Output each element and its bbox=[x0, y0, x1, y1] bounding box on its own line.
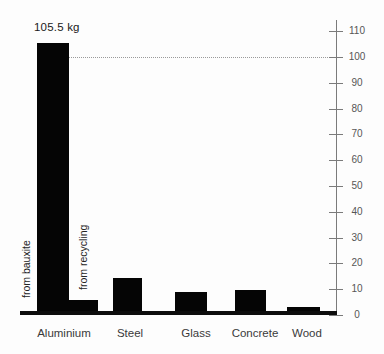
y-tick-label-80: 80 bbox=[344, 103, 370, 115]
y-tick-80 bbox=[329, 109, 343, 110]
y-tick-0 bbox=[329, 315, 343, 316]
y-axis-line bbox=[336, 20, 337, 315]
category-label-steel: Steel bbox=[117, 327, 143, 339]
y-tick-label-90: 90 bbox=[344, 77, 370, 89]
y-tick-70 bbox=[329, 134, 343, 135]
bar-chart: 105.5 kg from bauxitefrom recycling 0102… bbox=[0, 0, 384, 354]
bar-aluminium-bauxite bbox=[37, 43, 69, 315]
y-tick-10 bbox=[329, 289, 343, 290]
y-tick-20 bbox=[329, 263, 343, 264]
chart-annotation: 105.5 kg bbox=[34, 21, 80, 33]
y-tick-label-20: 20 bbox=[344, 257, 370, 269]
category-label-aluminium: Aluminium bbox=[37, 327, 91, 339]
y-tick-label-30: 30 bbox=[344, 232, 370, 244]
y-tick-label-100: 100 bbox=[344, 51, 370, 63]
y-tick-label-110: 110 bbox=[344, 25, 370, 37]
bar-steel bbox=[113, 278, 142, 315]
y-tick-110 bbox=[329, 31, 343, 32]
y-tick-60 bbox=[329, 160, 343, 161]
sublabel-aluminium-recycling: from recycling bbox=[77, 225, 90, 290]
category-label-concrete: Concrete bbox=[232, 327, 279, 339]
y-tick-label-50: 50 bbox=[344, 180, 370, 192]
y-tick-label-60: 60 bbox=[344, 154, 370, 166]
y-tick-30 bbox=[329, 238, 343, 239]
y-tick-label-40: 40 bbox=[344, 206, 370, 218]
y-tick-50 bbox=[329, 186, 343, 187]
sublabel-aluminium-bauxite: from bauxite bbox=[20, 240, 33, 298]
x-axis-line bbox=[20, 311, 337, 315]
y-tick-label-10: 10 bbox=[344, 283, 370, 295]
category-label-wood: Wood bbox=[292, 327, 322, 339]
y-tick-100 bbox=[329, 57, 343, 58]
y-tick-40 bbox=[329, 212, 343, 213]
y-tick-label-70: 70 bbox=[344, 128, 370, 140]
category-label-glass: Glass bbox=[181, 327, 210, 339]
reference-line-100 bbox=[69, 57, 336, 58]
figure: 105.5 kg from bauxitefrom recycling 0102… bbox=[0, 0, 384, 354]
y-tick-90 bbox=[329, 83, 343, 84]
y-tick-label-0: 0 bbox=[344, 309, 370, 321]
